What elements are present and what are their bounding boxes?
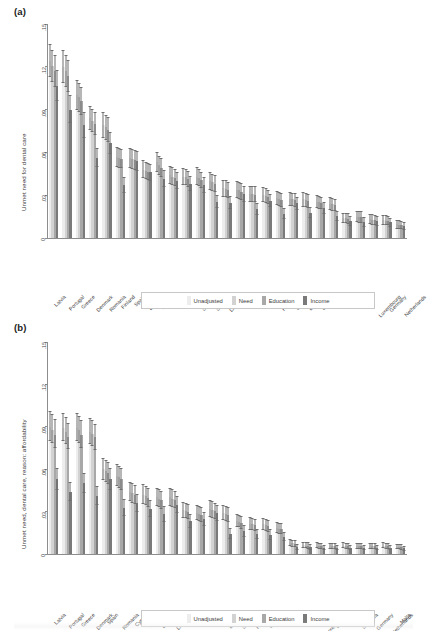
bar-income (403, 342, 405, 554)
bar-income (376, 342, 378, 554)
error-bar (203, 177, 204, 193)
bar-group (169, 342, 178, 554)
bar-group (182, 342, 191, 554)
bar-income (323, 342, 325, 554)
bar-group (382, 24, 391, 238)
panel-b-plot-area: 0.03.06.09.12.15 (47, 342, 407, 555)
bar-income (256, 342, 258, 554)
y-tick-label: .09 (40, 427, 46, 435)
y-tick-label: .03 (40, 512, 46, 520)
bar-income (69, 342, 71, 554)
bar-rect (96, 158, 98, 238)
error-bar (217, 195, 218, 209)
bar-rect (109, 479, 111, 554)
y-tick-label: .09 (40, 110, 46, 118)
bar-rect (176, 181, 178, 238)
bar-income (269, 342, 271, 554)
error-bar (110, 468, 111, 490)
caption-strip (14, 622, 413, 630)
bar-group (49, 24, 58, 238)
bar-income (109, 342, 111, 554)
bar-group (76, 24, 85, 238)
panel-a-y-axis-line (47, 24, 48, 239)
bar-income (136, 342, 138, 554)
bar-group (142, 24, 151, 238)
bar-income (69, 24, 71, 238)
panel-a-label: (a) (14, 6, 26, 17)
bar-income (269, 24, 271, 238)
error-bar (163, 170, 164, 187)
bar-income (123, 342, 125, 554)
bar-group (169, 24, 178, 238)
bar-group (209, 24, 218, 238)
error-bar (123, 499, 124, 516)
bar-income (83, 24, 85, 238)
error-bar (177, 496, 178, 513)
error-bar (337, 545, 338, 551)
bar-group (369, 24, 378, 238)
bar-income (336, 342, 338, 554)
error-bar (270, 194, 271, 208)
panel-b: (b) Unmet need, dental care, reason: aff… (0, 316, 427, 631)
legend-item-unadjusted[interactable]: Unadjusted (187, 296, 223, 305)
bar-income (176, 342, 178, 554)
bar-group (342, 24, 351, 238)
bar-income (309, 342, 311, 554)
bar-group (396, 342, 405, 554)
error-bar (403, 546, 404, 551)
error-bar (270, 529, 271, 539)
panel-b-label: (b) (14, 322, 27, 333)
bar-income (136, 24, 138, 238)
error-bar (363, 545, 364, 551)
error-bar (150, 500, 151, 517)
bar-income (243, 24, 245, 238)
error-bar (297, 197, 298, 210)
bar-income (216, 342, 218, 554)
bar-group (182, 24, 191, 238)
panel-b-x-axis-labels: LatviaPortugalGreeceDenmarkSpainRomaniaC… (47, 558, 407, 616)
error-bar (83, 112, 84, 138)
bar-income (96, 24, 98, 238)
bar-income (56, 342, 58, 554)
bar-group (142, 342, 151, 554)
bar-income (256, 24, 258, 238)
panel-a-x-axis-labels: LatviaPortugalGreeceDenmarkRomaniaFinlan… (47, 240, 407, 298)
bar-group (156, 342, 165, 554)
error-bar (123, 177, 124, 193)
bar-rect (149, 172, 151, 238)
bar-group (62, 24, 71, 238)
bar-income (389, 342, 391, 554)
bar-rect (163, 179, 165, 238)
error-bar (377, 545, 378, 551)
bar-group (369, 342, 378, 554)
bar-rect (83, 125, 85, 238)
bar-income (189, 342, 191, 554)
bar-income (363, 24, 365, 238)
bar-income (163, 24, 165, 238)
bar-group (316, 24, 325, 238)
panel-a-y-axis-title: Unmet need for dental care (20, 56, 27, 211)
bar-group (289, 342, 298, 554)
legend-item-need[interactable]: Need (232, 296, 253, 305)
legend-swatch (303, 296, 307, 305)
bar-rect (189, 184, 191, 238)
bar-group (249, 342, 258, 554)
bar-income (403, 24, 405, 238)
error-bar (350, 545, 351, 551)
y-tick-label: 0 (40, 238, 46, 241)
bar-income (283, 24, 285, 238)
bar-income (349, 342, 351, 554)
bar-group (329, 342, 338, 554)
legend-item-education[interactable]: Education (262, 296, 295, 305)
bar-group (262, 342, 271, 554)
y-tick-label: .03 (40, 195, 46, 203)
legend-item-income[interactable]: Income (303, 296, 329, 305)
bar-income (296, 24, 298, 238)
error-bar (203, 512, 204, 526)
error-bar (390, 545, 391, 551)
error-bar (97, 148, 98, 167)
legend-label: Need (239, 298, 253, 304)
panel-a-legend: UnadjustedNeedEducationIncome (141, 292, 375, 309)
error-bar (257, 203, 258, 215)
legend-label: Unadjusted (194, 298, 223, 304)
